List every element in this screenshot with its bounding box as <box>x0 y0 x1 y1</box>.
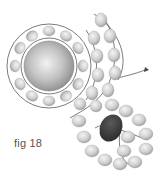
figure-18-diagram: fig 18 <box>0 0 164 174</box>
center-bead <box>24 41 74 91</box>
arrow-head-icon <box>144 67 149 72</box>
figure-caption: fig 18 <box>14 137 42 149</box>
